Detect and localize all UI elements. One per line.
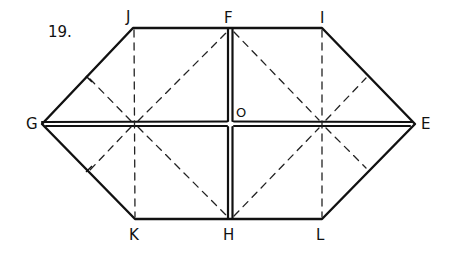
label-j: J (126, 10, 130, 25)
tick-gj (86, 76, 92, 82)
dashed-p1-gk-mid (90, 127, 131, 170)
dashed-p1-gj-mid (90, 79, 131, 121)
dashed-j-k (134, 30, 135, 217)
dashed-f-p2 (234, 32, 319, 120)
line-o-e-top (234, 122, 412, 123)
label-f: F (224, 11, 233, 26)
label-i: I (320, 11, 324, 26)
label-g: G (26, 117, 38, 132)
label-l: L (316, 228, 324, 243)
dashed-p2-le-mid (326, 128, 366, 168)
label-e: E (421, 117, 430, 132)
dashed-p2-ie-mid (326, 78, 366, 120)
dashed-h-p2 (234, 128, 319, 216)
figure-number: 19. (48, 25, 72, 40)
dashed-p1-h (138, 127, 227, 216)
label-k: K (129, 228, 139, 243)
label-o: O (236, 106, 246, 119)
label-h: H (223, 228, 234, 243)
diagram-figure-19: 19. J F I G E O K H L (0, 0, 453, 260)
dashed-p1-f (138, 32, 227, 121)
